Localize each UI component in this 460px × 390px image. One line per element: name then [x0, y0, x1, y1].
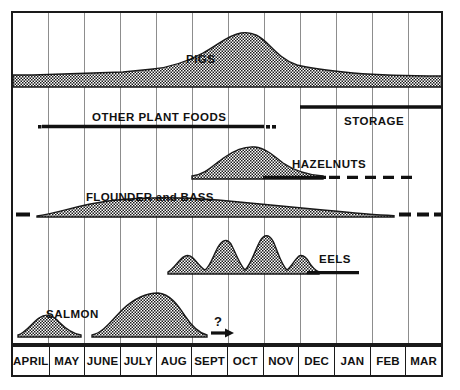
- month-cell-nov: NOV: [264, 347, 300, 375]
- month-cell-feb: FEB: [371, 347, 407, 375]
- month-cell-oct: OCT: [228, 347, 264, 375]
- month-cell-may: MAY: [50, 347, 86, 375]
- salmon-continuation-arrow: [211, 329, 234, 338]
- label-pigs: PIGS: [186, 53, 215, 65]
- other-plant-foods-trailing-dot-1: [266, 125, 270, 129]
- series-pigs-band: [13, 33, 443, 87]
- seasonality-chart: PIGS OTHER PLANT FOODS STORAGE HAZELNUTS…: [0, 0, 460, 390]
- label-eels: EELS: [319, 253, 351, 265]
- month-cell-june: JUNE: [85, 347, 121, 375]
- label-salmon: SALMON: [46, 308, 99, 320]
- month-cell-april: APRIL: [13, 347, 50, 375]
- month-cell-dec: DEC: [299, 347, 335, 375]
- month-axis: APRIL MAY JUNE JULY AUG SEPT OCT NOV DEC…: [11, 345, 443, 377]
- plot-area: PIGS OTHER PLANT FOODS STORAGE HAZELNUTS…: [11, 11, 443, 345]
- month-cell-sept: SEPT: [192, 347, 228, 375]
- label-hazelnuts: HAZELNUTS: [292, 158, 366, 170]
- series-salmon-band-main: [92, 293, 207, 337]
- label-storage: STORAGE: [344, 115, 404, 127]
- series-other-plant-foods: [38, 125, 276, 129]
- month-cell-july: JULY: [121, 347, 157, 375]
- month-cell-jan: JAN: [335, 347, 371, 375]
- label-flounder-and-bass: FLOUNDER and BASS: [86, 191, 214, 203]
- series-flounder-and-bass: [16, 198, 443, 217]
- other-plant-foods-trailing-dot-2: [272, 125, 276, 129]
- month-cell-mar: MAR: [406, 347, 441, 375]
- series-eels-band: [168, 236, 319, 274]
- other-plant-foods-leading-dot: [38, 125, 42, 129]
- label-question-mark: ?: [214, 314, 222, 329]
- series-layer: [13, 13, 443, 345]
- month-cell-aug: AUG: [157, 347, 193, 375]
- label-other-plant-foods: OTHER PLANT FOODS: [92, 111, 226, 123]
- series-pigs: [13, 33, 443, 87]
